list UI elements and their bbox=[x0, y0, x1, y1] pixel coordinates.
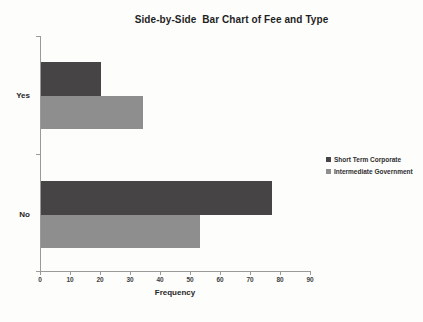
legend-item-short-term-corporate: Short Term Corporate bbox=[326, 155, 413, 163]
x-axis-tick bbox=[280, 272, 281, 275]
y-axis-tick bbox=[36, 154, 40, 155]
x-axis-tick bbox=[220, 272, 221, 275]
x-tick-label: 50 bbox=[180, 276, 200, 283]
x-tick-label: 10 bbox=[60, 276, 80, 283]
bar-yes-short-term-corporate bbox=[41, 62, 101, 96]
x-axis-label: Frequency bbox=[40, 288, 310, 297]
x-axis-tick bbox=[130, 272, 131, 275]
x-tick-label: 30 bbox=[120, 276, 140, 283]
legend-item-intermediate-government: Intermediate Government bbox=[326, 167, 413, 175]
bar-no-short-term-corporate bbox=[41, 181, 272, 215]
x-axis-tick bbox=[70, 272, 71, 275]
x-tick-label: 70 bbox=[240, 276, 260, 283]
x-tick-label: 80 bbox=[270, 276, 290, 283]
category-label-yes: Yes bbox=[0, 91, 34, 101]
x-axis-tick bbox=[160, 272, 161, 275]
x-axis-tick bbox=[40, 272, 41, 275]
x-axis-tick bbox=[190, 272, 191, 275]
category-label-no: No bbox=[0, 210, 34, 220]
legend: Short Term CorporateIntermediate Governm… bbox=[326, 155, 413, 175]
y-axis-tick bbox=[36, 36, 40, 37]
legend-marker-icon bbox=[326, 169, 331, 174]
x-tick-label: 40 bbox=[150, 276, 170, 283]
bar-yes-intermediate-government bbox=[41, 96, 143, 129]
bar-no-intermediate-government bbox=[41, 215, 200, 248]
y-axis-tick bbox=[36, 271, 40, 272]
x-tick-label: 90 bbox=[300, 276, 320, 283]
plot-area bbox=[40, 36, 311, 272]
chart-title: Side-by-Side Bar Chart of Fee and Type bbox=[40, 14, 423, 25]
x-tick-label: 60 bbox=[210, 276, 230, 283]
x-axis-tick bbox=[310, 272, 311, 275]
chart-page: Side-by-Side Bar Chart of Fee and Type Y… bbox=[0, 0, 423, 322]
x-axis-tick bbox=[100, 272, 101, 275]
x-axis-tick bbox=[250, 272, 251, 275]
legend-label: Short Term Corporate bbox=[334, 156, 401, 163]
x-tick-label: 0 bbox=[30, 276, 50, 283]
legend-label: Intermediate Government bbox=[334, 168, 413, 175]
x-tick-label: 20 bbox=[90, 276, 110, 283]
legend-marker-icon bbox=[326, 157, 331, 162]
